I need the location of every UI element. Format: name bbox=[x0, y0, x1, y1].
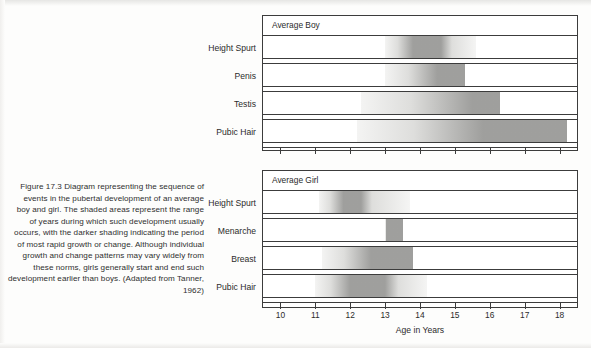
row-label-menarche: Menarche bbox=[150, 226, 256, 236]
x-axis-title: Age in Years bbox=[262, 325, 578, 335]
row-label-height-spurt: Height Spurt bbox=[150, 198, 256, 208]
range-bar bbox=[385, 219, 402, 241]
x-axis bbox=[263, 148, 577, 162]
x-axis-tick bbox=[280, 303, 281, 309]
range-bar bbox=[315, 275, 427, 297]
x-axis-tick-label: 15 bbox=[450, 310, 459, 320]
event-row bbox=[263, 64, 577, 87]
x-axis-tick bbox=[560, 303, 561, 309]
x-axis-tick bbox=[420, 148, 421, 154]
range-bar bbox=[322, 247, 413, 269]
range-bar bbox=[385, 64, 465, 86]
chart-boy-title-row: Average Boy bbox=[263, 16, 577, 36]
chart-boy-rows bbox=[263, 36, 577, 162]
x-axis-tick-label: 17 bbox=[520, 310, 529, 320]
x-axis-tick bbox=[315, 303, 316, 309]
event-row bbox=[263, 219, 577, 242]
page-left-shading bbox=[0, 0, 5, 348]
row-label-pubic-hair: Pubic Hair bbox=[150, 127, 256, 137]
x-axis-tick bbox=[280, 148, 281, 154]
x-axis-tick bbox=[385, 148, 386, 154]
row-label-penis: Penis bbox=[150, 71, 256, 81]
event-row bbox=[263, 36, 577, 59]
row-label-height-spurt: Height Spurt bbox=[150, 43, 256, 53]
x-axis-tick bbox=[455, 303, 456, 309]
x-axis-tick bbox=[455, 148, 456, 154]
row-label-testis: Testis bbox=[150, 99, 256, 109]
chart-boy-row-labels: Height SpurtPenisTestisPubic Hair bbox=[150, 15, 256, 151]
x-axis-tick-label: 18 bbox=[555, 310, 564, 320]
event-row bbox=[263, 275, 577, 298]
event-row bbox=[263, 247, 577, 270]
page-top-shading bbox=[0, 0, 591, 6]
x-axis-tick bbox=[350, 303, 351, 309]
x-axis-tick bbox=[420, 303, 421, 309]
x-axis-tick bbox=[385, 303, 386, 309]
range-bar bbox=[319, 191, 410, 213]
chart-girl-title: Average Girl bbox=[272, 175, 318, 185]
event-row bbox=[263, 120, 577, 143]
row-label-breast: Breast bbox=[150, 254, 256, 264]
chart-average-boy: Average Boy bbox=[262, 15, 578, 151]
chart-boy-title: Average Boy bbox=[272, 20, 320, 30]
x-axis-tick bbox=[525, 303, 526, 309]
event-row bbox=[263, 92, 577, 115]
range-bar bbox=[385, 36, 476, 58]
x-axis-tick-labels: 101112131415161718 bbox=[262, 310, 578, 322]
range-bar bbox=[357, 120, 566, 142]
x-axis-tick-label: 16 bbox=[485, 310, 494, 320]
chart-girl-row-labels: Height SpurtMenarcheBreastPubic Hair bbox=[150, 170, 256, 308]
x-axis-tick bbox=[560, 148, 561, 154]
range-bar bbox=[361, 92, 501, 114]
x-axis-tick-label: 14 bbox=[415, 310, 424, 320]
x-axis-tick-label: 12 bbox=[346, 310, 355, 320]
x-axis-tick bbox=[315, 148, 316, 154]
row-label-pubic-hair: Pubic Hair bbox=[150, 282, 256, 292]
x-axis-tick bbox=[350, 148, 351, 154]
chart-girl-rows bbox=[263, 191, 577, 317]
event-row bbox=[263, 191, 577, 214]
x-axis-tick bbox=[525, 148, 526, 154]
chart-average-girl: Average Girl bbox=[262, 170, 578, 308]
chart-girl-title-row: Average Girl bbox=[263, 171, 577, 191]
x-axis-tick-label: 11 bbox=[311, 310, 320, 320]
x-axis-tick bbox=[490, 148, 491, 154]
x-axis-tick-label: 13 bbox=[380, 310, 389, 320]
x-axis-tick-label: 10 bbox=[276, 310, 285, 320]
x-axis-tick bbox=[490, 303, 491, 309]
page-bottom-shading bbox=[0, 343, 591, 348]
